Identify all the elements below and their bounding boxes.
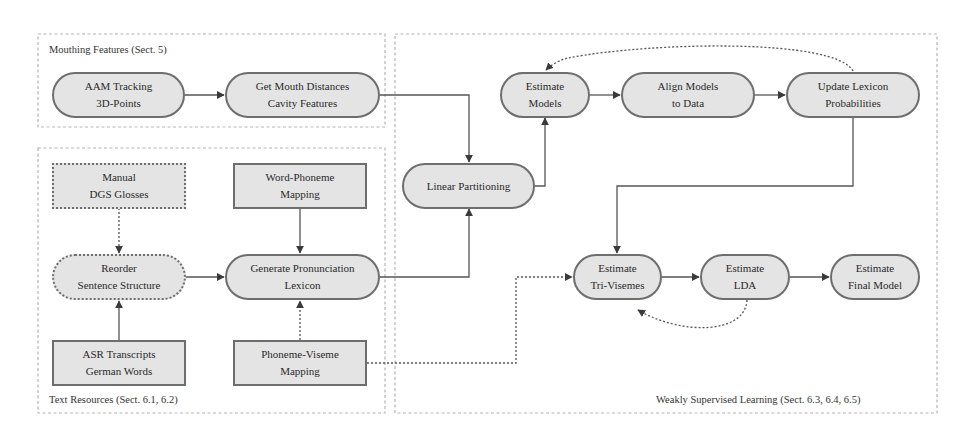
node-manual-dgs-line2: DGS Glosses	[90, 186, 149, 203]
node-align-models: Align Models to Data	[621, 72, 755, 118]
node-aam-tracking: AAM Tracking 3D-Points	[52, 72, 185, 118]
node-generate-lexicon-line1: Generate Pronunciation	[250, 260, 354, 277]
node-estimate-trivisemes-line2: Tri-Visemes	[591, 277, 645, 294]
edge-linear-to-estimate-models	[535, 118, 545, 186]
node-linear-partitioning: Linear Partitioning	[402, 163, 535, 209]
node-mouth-distances-line1: Get Mouth Distances	[256, 78, 349, 95]
node-align-models-line1: Align Models	[658, 78, 719, 95]
node-estimate-final-line2: Final Model	[848, 277, 902, 294]
node-aam-tracking-line1: AAM Tracking	[85, 78, 153, 95]
node-generate-lexicon-line2: Lexicon	[284, 277, 320, 294]
node-align-models-line2: to Data	[672, 95, 704, 112]
node-estimate-trivisemes-line1: Estimate	[598, 260, 637, 277]
node-generate-lexicon: Generate Pronunciation Lexicon	[225, 254, 380, 300]
node-asr-transcripts-line1: ASR Transcripts	[82, 346, 155, 363]
node-mouth-distances-line2: Cavity Features	[268, 95, 337, 112]
node-estimate-models-line2: Models	[529, 95, 562, 112]
node-estimate-final: Estimate Final Model	[830, 254, 920, 300]
node-estimate-models-line1: Estimate	[526, 78, 565, 95]
node-reorder-line2: Sentence Structure	[78, 277, 161, 294]
node-mouth-distances: Get Mouth Distances Cavity Features	[225, 72, 380, 118]
node-phoneme-viseme: Phoneme-Viseme Mapping	[233, 340, 367, 386]
node-reorder-line1: Reorder	[101, 260, 136, 277]
node-word-phoneme-line2: Mapping	[280, 186, 320, 203]
node-phoneme-viseme-line2: Mapping	[280, 363, 320, 380]
group-text-resources-label: Text Resources (Sect. 6.1, 6.2)	[49, 394, 178, 405]
edge-update-to-trivisemes	[617, 117, 853, 253]
node-manual-dgs-line1: Manual	[102, 169, 136, 186]
node-aam-tracking-line2: 3D-Points	[96, 95, 141, 112]
node-estimate-lda-line1: Estimate	[726, 260, 765, 277]
node-update-lexicon-line1: Update Lexicon	[818, 78, 889, 95]
node-estimate-lda-line2: LDA	[734, 277, 757, 294]
node-estimate-final-line1: Estimate	[856, 260, 895, 277]
node-linear-partitioning-line1: Linear Partitioning	[427, 178, 510, 195]
node-asr-transcripts-line2: German Words	[86, 363, 152, 380]
edge-phonemeviseme-to-trivisemes	[367, 277, 572, 363]
edge-update-to-estimate-models	[546, 46, 853, 71]
node-word-phoneme: Word-Phoneme Mapping	[233, 163, 367, 209]
node-estimate-trivisemes: Estimate Tri-Visemes	[573, 254, 662, 300]
edge-lda-to-trivisemes	[638, 300, 747, 328]
edge-generate-to-linear	[380, 209, 469, 277]
group-mouthing-label: Mouthing Features (Sect. 5)	[49, 44, 167, 55]
node-reorder: Reorder Sentence Structure	[52, 254, 186, 300]
node-update-lexicon: Update Lexicon Probabilities	[786, 72, 920, 118]
node-asr-transcripts: ASR Transcripts German Words	[52, 340, 186, 386]
node-word-phoneme-line1: Word-Phoneme	[266, 169, 335, 186]
node-phoneme-viseme-line1: Phoneme-Viseme	[261, 346, 339, 363]
edge-mouth-to-linear	[380, 95, 469, 162]
node-update-lexicon-line2: Probabilities	[825, 95, 881, 112]
group-weakly-supervised-label: Weakly Supervised Learning (Sect. 6.3, 6…	[656, 394, 860, 405]
node-estimate-lda: Estimate LDA	[700, 254, 790, 300]
node-estimate-models: Estimate Models	[500, 72, 590, 118]
node-manual-dgs: Manual DGS Glosses	[52, 163, 186, 209]
